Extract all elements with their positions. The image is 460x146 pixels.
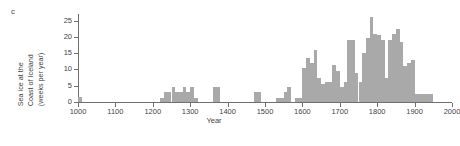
x-axis-tick-label: 1300 <box>182 108 199 116</box>
bar <box>430 94 434 102</box>
y-axis-line <box>78 14 79 103</box>
x-axis-tick-label: 1800 <box>369 108 386 116</box>
y-axis-tick-label: 15 <box>64 49 72 57</box>
y-axis-tick-label: 0 <box>68 98 72 106</box>
y-axis-tick <box>74 69 78 70</box>
y-axis-tick-label: 20 <box>64 33 72 41</box>
x-axis-tick-label: 1500 <box>257 108 274 116</box>
x-axis-tick-label: 1000 <box>70 108 87 116</box>
bar <box>287 87 291 102</box>
y-axis-title-line-3: (weeks per year) <box>37 52 44 106</box>
y-axis-tick-label: 10 <box>64 66 72 74</box>
x-axis-tick-label: 1600 <box>294 108 311 116</box>
bar <box>216 87 220 102</box>
plot-area: 0510152025 10001100120013001400150016001… <box>78 14 452 103</box>
bar <box>78 97 82 102</box>
y-axis-tick <box>74 21 78 22</box>
y-axis-tick <box>74 53 78 54</box>
y-axis-title-line-1: Sea ice at the <box>17 62 24 106</box>
bar <box>194 98 198 102</box>
x-axis-tick-label: 2000 <box>444 108 460 116</box>
y-axis-tick-label: 5 <box>68 82 72 90</box>
x-axis-tick-label: 1200 <box>144 108 161 116</box>
x-axis-tick-label: 1400 <box>219 108 236 116</box>
x-axis-title-text: Year <box>206 116 221 125</box>
x-axis-tick-label: 1100 <box>107 108 123 116</box>
x-axis-title: Year <box>0 117 456 125</box>
y-axis-tick-label: 25 <box>64 17 72 25</box>
panel-label: c <box>11 8 15 16</box>
y-axis-tick <box>74 86 78 87</box>
y-axis-tick <box>74 37 78 38</box>
x-axis-tick-label: 1900 <box>406 108 423 116</box>
y-axis-title: Sea ice at the Coast of Iceland (weeks p… <box>22 14 68 106</box>
x-axis-tick-label: 1700 <box>331 108 348 116</box>
bar <box>258 92 262 102</box>
y-axis-title-line-2: Coast of Iceland <box>27 54 34 106</box>
